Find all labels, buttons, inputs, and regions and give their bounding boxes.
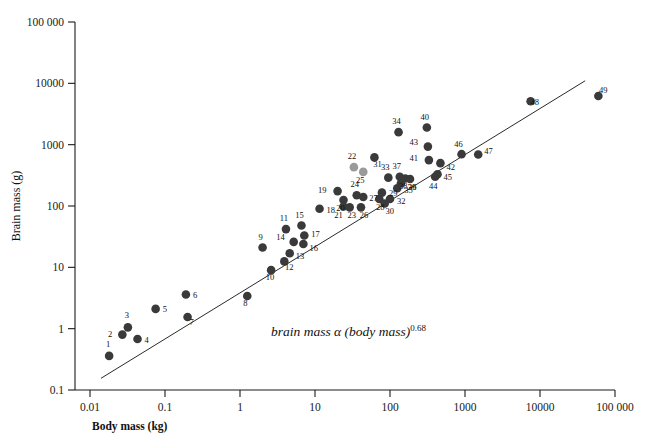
brain-body-mass-scatter-figure: 0.1110100100010000100 0000.010.111010010… — [0, 0, 645, 439]
data-point-label: 26 — [360, 210, 369, 220]
data-point-marker — [333, 187, 342, 196]
x-tick-label: 10000 — [526, 401, 555, 413]
data-point-label: 34 — [392, 116, 401, 126]
data-point-label: 15 — [295, 210, 304, 220]
data-point-label: 11 — [280, 213, 288, 223]
data-point-label: 13 — [296, 251, 305, 261]
data-point-label: 40 — [421, 112, 430, 122]
x-tick-label: 1 — [237, 401, 243, 413]
data-point-label: 8 — [243, 298, 247, 308]
data-point-marker — [423, 123, 432, 132]
chart-text-layer: 0.1110100100010000100 0000.010.111010010… — [9, 16, 634, 433]
x-tick-label: 0.1 — [158, 401, 173, 413]
x-tick-label: 100 000 — [596, 401, 634, 413]
data-point-marker — [424, 142, 433, 151]
data-point-marker — [384, 173, 393, 182]
data-point-marker — [425, 156, 434, 165]
data-point-label: 41 — [409, 153, 418, 163]
data-point-label: 12 — [285, 262, 294, 272]
x-tick-label: 0.01 — [80, 401, 100, 413]
y-tick-label: 10 — [53, 261, 65, 273]
data-point-marker — [433, 170, 442, 179]
y-tick-label: 100 000 — [27, 16, 65, 28]
y-tick-label: 1 — [58, 323, 64, 335]
y-tick-label: 100 — [47, 200, 65, 212]
data-point-label: 3 — [125, 310, 129, 320]
data-point-marker — [297, 221, 306, 230]
data-point-label: 37 — [393, 161, 402, 171]
data-point-label: 23 — [347, 210, 356, 220]
data-point-marker — [359, 193, 368, 202]
data-points — [105, 92, 603, 360]
data-point-label: 16 — [309, 243, 318, 253]
data-point-label: 38 — [399, 181, 408, 191]
data-point-label: 2 — [108, 329, 112, 339]
data-point-marker — [436, 159, 445, 168]
data-point-marker — [350, 163, 359, 172]
data-point-label: 42 — [446, 162, 455, 172]
data-point-label: 39 — [408, 182, 417, 192]
data-point-label: 19 — [318, 185, 327, 195]
data-point-marker — [133, 335, 142, 344]
x-axis-title: Body mass (kg) — [92, 420, 168, 433]
data-point-marker — [315, 205, 324, 214]
data-point-marker — [300, 231, 309, 240]
data-point-label: 25 — [356, 175, 365, 185]
y-tick-label: 0.1 — [50, 384, 65, 396]
data-point-label: 43 — [409, 137, 418, 147]
y-tick-label: 10000 — [35, 77, 64, 89]
data-point-label: 46 — [454, 139, 463, 149]
data-point-marker — [474, 150, 483, 159]
x-tick-label: 10 — [309, 401, 321, 413]
data-point-label: 14 — [276, 232, 285, 242]
data-point-marker — [105, 352, 114, 361]
x-tick-label: 100 — [381, 401, 399, 413]
data-point-marker — [124, 323, 133, 332]
data-point-label: 44 — [429, 181, 438, 191]
y-axis-title: Brain mass (g) — [9, 171, 23, 242]
data-point-marker — [378, 188, 387, 197]
equation-annotation: brain mass α (body mass)0.68 — [271, 323, 426, 339]
data-point-label: 30 — [385, 206, 394, 216]
plot-canvas: 0.1110100100010000100 0000.010.111010010… — [0, 0, 645, 439]
data-point-marker — [258, 243, 267, 252]
data-point-label: 32 — [397, 196, 406, 206]
data-point-label: 4 — [145, 335, 150, 345]
data-point-label: 48 — [530, 97, 539, 107]
data-point-label: 10 — [266, 272, 275, 282]
data-point-label: 45 — [444, 172, 453, 182]
data-point-label: 22 — [348, 151, 357, 161]
data-point-marker — [118, 330, 127, 339]
data-point-marker — [182, 290, 191, 299]
data-point-label: 7 — [189, 317, 193, 327]
data-point-label: 21 — [334, 210, 343, 220]
y-tick-label: 1000 — [41, 139, 64, 151]
data-point-label: 1 — [106, 339, 110, 349]
data-point-label: 33 — [381, 162, 390, 172]
data-point-marker — [289, 238, 298, 247]
data-point-label: 9 — [258, 232, 262, 242]
data-point-marker — [457, 150, 466, 159]
data-point-label: 17 — [311, 229, 320, 239]
data-point-marker — [285, 249, 294, 258]
data-point-label: 47 — [484, 146, 493, 156]
x-tick-label: 1000 — [454, 401, 477, 413]
data-point-marker — [151, 305, 160, 314]
data-point-label: 28 — [376, 202, 385, 212]
data-point-marker — [299, 240, 308, 249]
data-point-label: 6 — [193, 290, 197, 300]
data-point-label: 5 — [163, 304, 167, 314]
data-point-label: 49 — [599, 85, 608, 95]
data-point-marker — [394, 128, 403, 137]
